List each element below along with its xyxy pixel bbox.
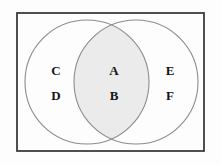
label-a: A [109,63,119,78]
label-b: B [110,88,119,103]
label-c: C [51,63,60,78]
label-d: D [51,88,60,103]
venn-diagram-canvas: C D A B E F [0,0,221,165]
label-f: F [166,88,174,103]
venn-diagram-figure: C D A B E F [0,0,221,165]
label-e: E [166,63,175,78]
